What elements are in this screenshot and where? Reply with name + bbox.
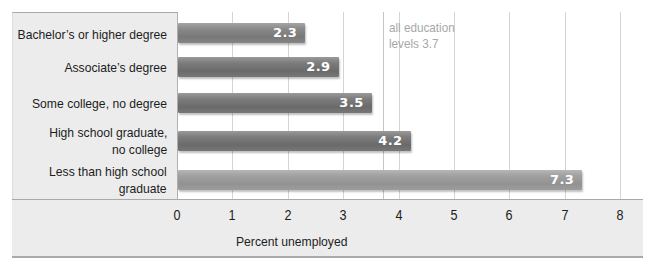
- bar-value-label: 7.3: [550, 172, 575, 187]
- x-tick-label: 2: [279, 207, 297, 223]
- bar-value-label: 3.5: [339, 95, 364, 110]
- category-label: Less than high school graduate: [49, 163, 167, 197]
- reference-line-label: all education levels 3.7: [389, 20, 455, 52]
- bar-value-label: 2.9: [306, 59, 331, 74]
- bar: 2.3: [178, 23, 305, 43]
- gridline: [620, 12, 621, 199]
- x-tick-label: 3: [334, 207, 352, 223]
- x-axis-title: Percent unemployed: [236, 234, 347, 249]
- x-tick-label: 1: [223, 207, 241, 223]
- bar: 2.9: [178, 57, 339, 77]
- bar-value-label: 2.3: [273, 25, 298, 40]
- x-tick-label: 8: [611, 207, 629, 223]
- category-label: Bachelor’s or higher degree: [18, 26, 167, 43]
- category-label: Some college, no degree: [32, 95, 167, 112]
- bar: 4.2: [178, 131, 411, 151]
- x-tick-label: 7: [556, 207, 574, 223]
- x-tick-label: 6: [500, 207, 518, 223]
- bar: 3.5: [178, 93, 372, 113]
- x-tick-label: 5: [445, 207, 463, 223]
- category-label: High school graduate, no college: [49, 124, 167, 158]
- bar: 7.3: [178, 170, 582, 190]
- category-label: Associate’s degree: [65, 59, 167, 76]
- x-axis-panel: [12, 199, 643, 258]
- bar-value-label: 4.2: [378, 133, 403, 148]
- plot-area: all education levels 3.72.32.93.54.27.3: [177, 12, 644, 199]
- x-tick-label: 4: [390, 207, 408, 223]
- x-tick-label: 0: [168, 207, 186, 223]
